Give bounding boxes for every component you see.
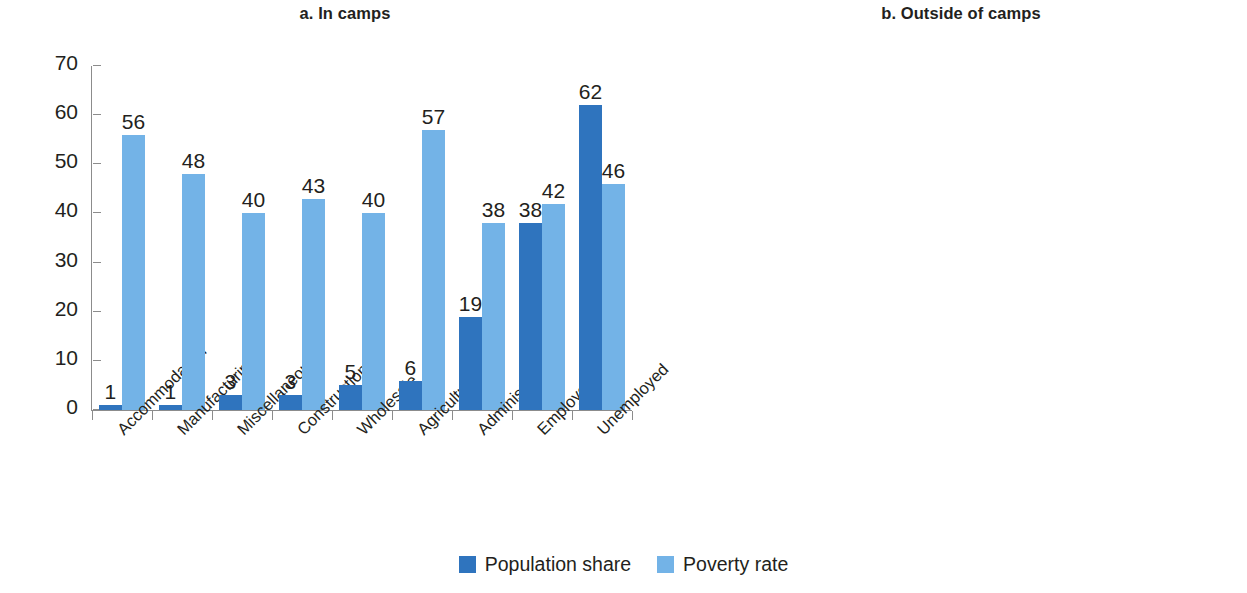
y-axis-tick-label: 0 [66,396,78,417]
bar-population-share[interactable]: 1 [159,405,182,410]
chart-panel-b: b. Outside of camps 010203040506070151El… [640,0,1247,545]
bar-population-share[interactable]: 62 [579,105,602,410]
bar-value-label: 1 [165,381,177,402]
panel-a-title: a. In camps [0,4,640,23]
x-axis-tick [92,411,93,420]
bar-population-share[interactable]: 3 [219,395,242,410]
legend-label: Population share [485,555,631,575]
grouped-bar-chart-figure: a. In camps 010203040506070156Accommodat… [0,0,1247,593]
bar-value-label: 46 [602,160,625,181]
legend-label: Poverty rate [683,555,788,575]
legend-swatch-icon [459,556,476,573]
bar-value-label: 48 [182,150,205,171]
x-axis-tick [272,411,273,420]
bar-poverty-rate[interactable]: 38 [482,223,505,410]
bar-value-label: 19 [459,293,482,314]
bar-poverty-rate[interactable]: 56 [122,135,145,410]
bar-population-share[interactable]: 6 [399,381,422,410]
chart-panel-a: a. In camps 010203040506070156Accommodat… [0,0,640,545]
y-axis-tick-label: 50 [55,150,78,171]
bar-group: 1938Administrative [452,66,512,410]
bar-value-label: 42 [542,180,565,201]
x-axis-tick [452,411,453,420]
x-axis-tick [632,411,633,420]
legend-item-population-share[interactable]: Population share [459,555,631,575]
bar-value-label: 43 [302,175,325,196]
bar-value-label: 5 [345,361,357,382]
bar-poverty-rate[interactable]: 46 [602,184,625,410]
panel-a-plot-area: 010203040506070156Accommodation148Manufa… [92,66,632,410]
y-axis-tick-label: 40 [55,199,78,220]
bar-poverty-rate[interactable]: 40 [242,213,265,410]
bar-value-label: 38 [519,199,542,220]
bar-poverty-rate[interactable]: 40 [362,213,385,410]
bar-group: 148Manufacturing [152,66,212,410]
bar-poverty-rate[interactable]: 57 [422,130,445,410]
bar-value-label: 3 [225,371,237,392]
bar-group: 3842Employed [512,66,572,410]
bar-population-share[interactable]: 38 [519,223,542,410]
bar-population-share[interactable]: 1 [99,405,122,410]
legend-item-poverty-rate[interactable]: Poverty rate [657,555,788,575]
x-axis-tick [392,411,393,420]
bar-poverty-rate[interactable]: 43 [302,199,325,410]
bar-poverty-rate[interactable]: 42 [542,204,565,410]
bar-value-label: 1 [105,381,117,402]
x-axis-tick [572,411,573,420]
y-axis-tick-label: 10 [55,347,78,368]
bar-population-share[interactable]: 19 [459,317,482,410]
bar-value-label: 40 [242,189,265,210]
y-axis-tick-label: 20 [55,298,78,319]
x-axis-tick [332,411,333,420]
x-axis-tick [152,411,153,420]
x-axis-tick [512,411,513,420]
bar-group: 156Accommodation [92,66,152,410]
x-axis-tick [212,411,213,420]
chart-legend: Population sharePoverty rate [0,555,1247,575]
bar-value-label: 38 [482,199,505,220]
bar-value-label: 56 [122,111,145,132]
bar-value-label: 6 [405,357,417,378]
bar-population-share[interactable]: 5 [339,385,362,410]
bar-group: 340Miscellaneous [212,66,272,410]
bar-poverty-rate[interactable]: 48 [182,174,205,410]
legend-swatch-icon [657,556,674,573]
bar-group: 343Construction [272,66,332,410]
bar-value-label: 40 [362,189,385,210]
bar-value-label: 3 [285,371,297,392]
panel-b-title: b. Outside of camps [640,4,1247,23]
y-axis-tick-label: 70 [55,52,78,73]
y-axis-tick-label: 30 [55,249,78,270]
bar-group: 540Wholesale [332,66,392,410]
bar-group: 6246Unemployed [572,66,632,410]
bar-value-label: 62 [579,81,602,102]
y-axis-tick-label: 60 [55,101,78,122]
bar-group: 657Agriculture [392,66,452,410]
bar-population-share[interactable]: 3 [279,395,302,410]
bar-value-label: 57 [422,106,445,127]
